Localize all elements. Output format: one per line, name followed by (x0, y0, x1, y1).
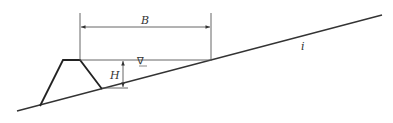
ground-slope-line (17, 15, 382, 111)
water-surface-symbol: ∇ (136, 55, 144, 66)
width-label: B (140, 14, 149, 27)
dike-outline (40, 60, 102, 106)
dike-cross-section-diagram: B ∇ H i (0, 0, 393, 123)
depth-label: H (109, 69, 120, 82)
slope-label: i (301, 40, 305, 53)
